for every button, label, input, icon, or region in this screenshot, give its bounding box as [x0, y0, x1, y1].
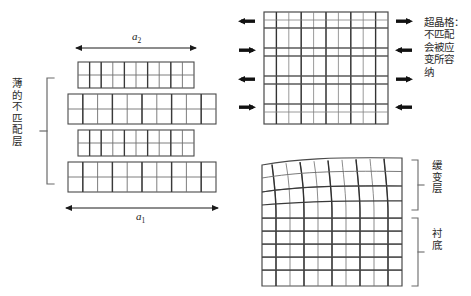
layer-1 [78, 62, 194, 88]
left-bracket [40, 78, 54, 184]
arrow-left-icon [395, 104, 412, 111]
arrow-left-icon [395, 47, 412, 54]
mismatch-layers-label: 薄的不匹配层 [10, 78, 22, 147]
diagram-svg [0, 0, 471, 296]
graded-layer-label: 缓变层 [430, 160, 442, 195]
arrow-right-icon [239, 47, 256, 54]
dimension-label-a2: a2 [132, 30, 141, 45]
arrow-right-icon [396, 18, 413, 25]
arrow-left-icon [238, 18, 255, 25]
layer-3 [78, 130, 194, 156]
superlattice-grid [264, 12, 388, 124]
substrate-bracket [412, 218, 424, 286]
layer-2 [68, 94, 216, 124]
strain-arrows-right [395, 18, 413, 111]
substrate-label: 衬底 [430, 228, 442, 251]
arrow-left-icon [238, 76, 255, 83]
arrow-right-icon [239, 104, 256, 111]
arrow-right-icon [396, 76, 413, 83]
superlattice-label: 超晶格： 不匹配 会被应 变所容 纳 [424, 16, 470, 78]
strain-arrows-left [238, 18, 256, 111]
figure-canvas: a2 a1 薄的不匹配层 超晶格： 不匹配 会被应 变所容 纳 缓变层 衬底 [0, 0, 471, 296]
dimension-label-a1: a1 [136, 210, 145, 225]
graded-layer-bracket [412, 160, 424, 210]
graded-substrate-grid [262, 158, 402, 286]
layer-4 [68, 162, 216, 192]
